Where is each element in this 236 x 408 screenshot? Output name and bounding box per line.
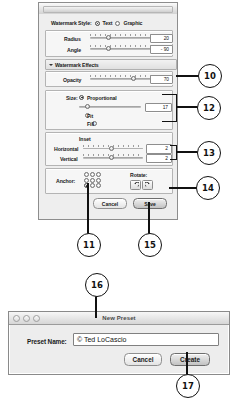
opacity-group: Opacity 70	[45, 71, 173, 87]
radius-slider-track	[90, 37, 152, 39]
radio-watermark-style-graphic[interactable]	[115, 21, 120, 26]
new-preset-dialog: New Preset Preset Name: © Ted LoCascio C…	[8, 311, 230, 375]
callout-17: 17	[176, 374, 200, 398]
opacity-slider-ticks	[90, 75, 152, 77]
opacity-slider-knob[interactable]	[131, 76, 136, 81]
minimize-button[interactable]	[23, 315, 30, 322]
opacity-value-field[interactable]: 70	[150, 75, 173, 85]
anchor-grid[interactable]	[83, 172, 101, 189]
size-group: Size: Proportional 17 Fit Fill	[45, 90, 173, 130]
angle-slider-ticks	[90, 45, 152, 47]
vertical-inset-slider[interactable]	[83, 154, 143, 161]
radius-slider[interactable]	[90, 34, 152, 41]
preset-dialog-title: New Preset	[9, 315, 229, 321]
angle-slider-knob[interactable]	[106, 46, 111, 51]
leader-line-15	[148, 202, 150, 235]
watermark-effects-title: Watermark Effects	[55, 62, 99, 68]
angle-value-field[interactable]: - 90	[150, 45, 173, 55]
watermark-style-row: Watermark Style: Text Graphic	[51, 20, 142, 26]
radius-label: Radius	[64, 36, 81, 42]
cancel-button[interactable]: Cancel	[93, 198, 127, 209]
watermark-effects-section-header[interactable]: Watermark Effects	[45, 59, 177, 70]
size-label: Size:	[66, 95, 78, 101]
callout-14: 14	[196, 176, 220, 200]
opacity-label: Opacity	[63, 77, 81, 83]
radius-slider-knob[interactable]	[106, 35, 111, 40]
radio-size-proportional[interactable]	[79, 95, 84, 100]
radius-value-field[interactable]: 20	[150, 34, 173, 44]
horizontal-slider-knob[interactable]	[109, 146, 114, 151]
callout-12: 12	[197, 96, 221, 120]
zoom-button[interactable]	[33, 315, 40, 322]
leader-line-17	[186, 352, 188, 375]
opacity-slider-track	[90, 78, 152, 80]
size-slider[interactable]	[79, 103, 141, 110]
watermark-style-text-label: Text	[103, 20, 113, 26]
watermark-style-graphic-label: Graphic	[123, 20, 142, 26]
leader-line-14	[169, 187, 197, 189]
size-fit-label: Fit	[87, 113, 93, 119]
anchor-cell-middle-right[interactable]	[95, 178, 101, 184]
radius-slider-ticks	[90, 34, 152, 36]
horizontal-inset-slider[interactable]	[83, 145, 143, 152]
watermark-dialog-body: Watermark Style: Text Graphic Radius 20 …	[39, 14, 177, 219]
callout-10: 10	[198, 64, 222, 88]
leader-line-16	[95, 294, 97, 318]
callout-16: 16	[85, 273, 109, 297]
preset-name-input[interactable]: © Ted LoCascio	[73, 333, 219, 346]
size-slider-knob[interactable]	[85, 104, 90, 109]
radio-watermark-style-text[interactable]	[95, 21, 100, 26]
titlebar-grip	[43, 6, 173, 13]
vertical-slider-knob[interactable]	[109, 155, 114, 160]
leader-line-13	[176, 151, 198, 153]
leader-bracket-12	[162, 94, 177, 122]
watermark-settings-dialog: Watermark Style: Text Graphic Radius 20 …	[38, 2, 178, 220]
leader-line-10	[176, 75, 200, 77]
inset-group: Inset Horizontal 2 Vertical 2	[45, 132, 173, 166]
basic-settings-group: Radius 20 Angle - 90	[45, 30, 173, 57]
window-controls[interactable]	[13, 315, 40, 322]
close-button[interactable]	[13, 315, 20, 322]
anchor-cell-bottom-right[interactable]	[95, 183, 101, 189]
horizontal-inset-field[interactable]: 2	[146, 144, 172, 154]
opacity-slider[interactable]	[90, 75, 152, 82]
rotate-counterclockwise-icon[interactable]	[130, 180, 141, 190]
callout-15: 15	[138, 233, 162, 257]
inset-title: Inset	[79, 136, 91, 142]
watermark-style-label: Watermark Style:	[51, 20, 92, 26]
size-proportional-label: Proportional	[87, 95, 117, 101]
angle-slider[interactable]	[90, 45, 152, 52]
vertical-label: Vertical	[60, 156, 78, 162]
leader-line-11	[87, 183, 89, 235]
angle-label: Angle	[67, 47, 81, 53]
anchor-rotate-group: Anchor: Rotate:	[45, 168, 173, 194]
rotate-label: Rotate:	[130, 172, 147, 178]
leader-line-12	[176, 106, 198, 108]
preset-dialog-titlebar[interactable]: New Preset	[9, 312, 229, 325]
horizontal-label: Horizontal	[54, 146, 78, 152]
angle-slider-track	[90, 48, 152, 50]
preset-cancel-button[interactable]: Cancel	[124, 353, 162, 366]
callout-13: 13	[197, 141, 221, 165]
anchor-label: Anchor:	[56, 178, 75, 184]
save-button[interactable]: Save	[133, 198, 167, 209]
rotate-clockwise-icon[interactable]	[142, 180, 153, 190]
vertical-inset-field[interactable]: 2	[146, 154, 172, 164]
preset-create-button[interactable]: Create	[170, 353, 210, 366]
triangle-down-icon[interactable]	[49, 64, 53, 66]
callout-11: 11	[77, 233, 101, 257]
anchor-cell-middle-center[interactable]	[89, 178, 95, 184]
preset-name-label: Preset Name:	[27, 338, 67, 345]
screenshot-stage: Watermark Style: Text Graphic Radius 20 …	[0, 0, 236, 408]
size-fill-label: Fill	[87, 121, 94, 127]
